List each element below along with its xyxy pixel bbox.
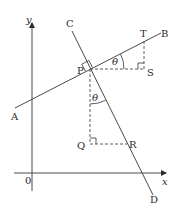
point-label-s: S	[147, 67, 154, 78]
point-label-b: B	[161, 28, 168, 39]
angle-arc-tps	[121, 54, 124, 69]
right-angle-mark-q	[90, 138, 96, 144]
geometry-diagram: y x 0 A B C D P Q R S T θ θ	[0, 0, 176, 213]
point-label-p: P	[77, 65, 84, 76]
right-angle-mark-s	[138, 63, 144, 69]
origin-label: 0	[25, 175, 31, 186]
point-label-d: D	[150, 194, 158, 205]
line-ab	[15, 33, 161, 108]
point-label-c: C	[66, 18, 74, 29]
point-label-q: Q	[77, 140, 85, 151]
x-axis-label: x	[162, 176, 168, 187]
point-label-a: A	[10, 111, 19, 122]
theta-label-tps: θ	[112, 56, 118, 67]
theta-label-qpr: θ	[92, 92, 98, 103]
point-label-r: R	[129, 139, 137, 150]
y-axis-label: y	[25, 14, 32, 25]
point-label-t: T	[140, 28, 147, 39]
